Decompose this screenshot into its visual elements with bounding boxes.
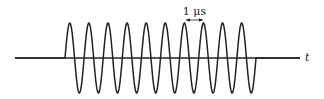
period-label: 1 μs [183,5,207,18]
waveform-diagram: 1 μs t [0,0,324,99]
period-marker [186,18,203,21]
axis-label-t: t [305,51,310,64]
